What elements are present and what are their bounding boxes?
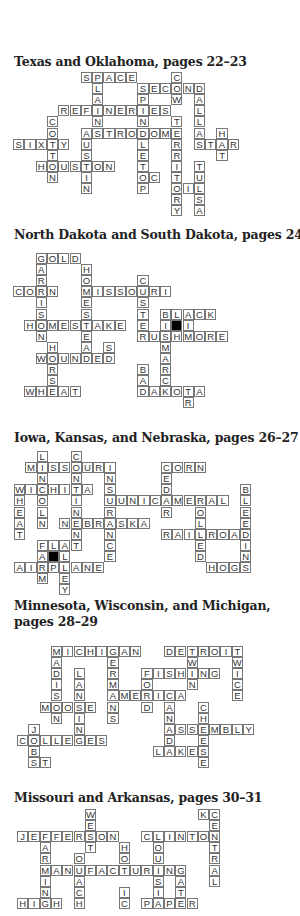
letter-cell: A [71,562,82,573]
letter-cell: A [164,724,175,735]
letter-cell: A [175,690,186,701]
letter-cell: R [107,668,118,679]
letter-cell: I [153,887,164,898]
letter-cell: H [198,713,209,724]
black-cell [171,320,182,331]
letter-cell: D [194,83,205,94]
letter-cell: A [37,551,48,562]
letter-cell: U [194,172,205,183]
letter-cell: N [47,286,58,297]
letter-cell: M [107,679,118,690]
letter-cell: N [71,507,82,518]
letter-cell: N [164,865,175,876]
letter-cell: L [240,495,251,506]
letter-cell: E [115,105,126,116]
letter-cell: D [81,353,92,364]
letter-cell: E [47,386,58,397]
letter-cell: I [92,105,103,116]
letter-cell: T [81,320,92,331]
letter-cell: S [116,518,127,529]
letter-cell: Y [58,139,69,150]
letter-cell: D [195,551,206,562]
letter-cell: D [164,646,175,657]
letter-cell: R [198,646,209,657]
letter-cell: S [81,150,92,161]
letter-cell: U [58,161,69,172]
letter-cell: A [164,746,175,757]
letter-cell: A [104,518,115,529]
letter-cell: A [183,309,194,320]
letter-cell: N [40,887,51,898]
letter-cell: M [37,573,48,584]
letter-cell: R [184,462,195,473]
letter-cell: N [130,646,141,657]
letter-cell: S [70,320,81,331]
letter-cell: O [195,507,206,518]
letter-cell: U [104,495,115,506]
letter-cell: E [70,105,81,116]
letter-cell: S [187,724,198,735]
puzzle-title: Iowa, Kansas, and Nebraska, pages 26–27 [14,430,298,446]
letter-cell: P [141,898,152,909]
letter-cell: H [81,264,92,275]
letter-cell: S [74,702,85,713]
letter-cell: C [37,484,48,495]
letter-cell: E [187,746,198,757]
letter-cell: E [240,507,251,518]
puzzle-title: Texas and Oklahoma, pages 22–23 [14,54,247,70]
letter-cell: T [183,386,194,397]
letter-cell: U [74,865,85,876]
letter-cell: F [85,865,96,876]
letter-cell: S [103,342,114,353]
letter-cell: N [198,668,209,679]
letter-cell: T [71,484,82,495]
letter-cell: R [160,364,171,375]
letter-cell: A [172,529,183,540]
letter-cell: T [209,842,220,853]
letter-cell: A [51,865,62,876]
letter-cell: N [127,495,138,506]
puzzle-title-line2: pages 28–29 [14,614,98,630]
letter-cell: M [160,128,171,139]
letter-cell: O [149,128,160,139]
letter-cell: A [81,128,92,139]
letter-cell: E [137,320,148,331]
letter-cell: G [209,668,220,679]
letter-cell: O [153,842,164,853]
letter-cell: R [187,898,198,909]
letter-cell: N [175,831,186,842]
letter-cell: O [36,320,47,331]
letter-cell: E [216,331,227,342]
letter-cell: I [81,172,92,183]
letter-cell: S [47,375,58,386]
letter-cell: S [81,72,92,83]
letter-cell: W [85,809,96,820]
letter-cell: F [37,540,48,551]
letter-cell: G [175,865,186,876]
letter-cell: R [115,128,126,139]
letter-cell: T [232,646,243,657]
letter-cell: I [37,462,48,473]
letter-cell: O [172,462,183,473]
letter-cell: S [48,462,59,473]
letter-cell: H [171,331,182,342]
letter-cell: S [153,876,164,887]
letter-cell: D [137,386,148,397]
letter-cell: R [161,529,172,540]
letter-cell: O [137,172,148,183]
letter-cell: E [93,562,104,573]
letter-cell: T [171,116,182,127]
letter-cell: B [137,364,148,375]
letter-cell: E [149,105,160,116]
letter-cell: S [194,139,205,150]
letter-cell: N [62,865,73,876]
letter-cell: E [62,831,73,842]
letter-cell: F [141,668,152,679]
letter-cell: A [160,353,171,364]
letter-cell: R [93,518,104,529]
letter-cell: T [187,831,198,842]
letter-cell: L [217,495,228,506]
letter-cell: I [184,529,195,540]
letter-cell: I [160,320,171,331]
letter-cell: G [107,646,118,657]
